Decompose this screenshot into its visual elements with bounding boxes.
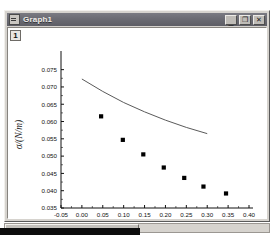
y-tick-label: 0.040 <box>42 187 58 194</box>
window-controls: _ ❐ ✕ <box>225 15 265 25</box>
graph-window: Graph1 _ ❐ ✕ 1 0.0750.0700.0650.0600.055… <box>4 10 270 222</box>
data-point <box>141 152 145 156</box>
minimize-icon: _ <box>226 17 236 25</box>
data-point <box>224 191 228 195</box>
x-tick-label: 0.20 <box>159 211 172 218</box>
plot-area: 0.0750.0700.0650.0600.0550.0500.0450.040… <box>8 28 268 220</box>
x-tick-label: 0.35 <box>222 211 235 218</box>
y-tick-label: 0.050 <box>42 152 58 159</box>
minimize-button[interactable]: _ <box>225 15 237 25</box>
data-point <box>201 184 205 188</box>
data-point <box>162 165 166 169</box>
y-tick-label: 0.065 <box>42 101 58 108</box>
window-title-bar[interactable]: Graph1 _ ❐ ✕ <box>7 13 267 26</box>
y-tick-label: 0.055 <box>42 135 58 142</box>
page-edge-marker <box>0 228 140 235</box>
y-tick-label: 0.070 <box>42 83 58 90</box>
series-line-fitted-curve <box>82 79 207 134</box>
y-tick-label: 0.060 <box>42 118 58 125</box>
x-tick-label: 0.15 <box>139 211 152 218</box>
y-tick-label: 0.045 <box>42 170 58 177</box>
y-tick-label: 0.075 <box>42 66 58 73</box>
maximize-icon: ❐ <box>240 16 250 24</box>
x-tick-label: -0.05 <box>54 211 69 218</box>
x-tick-label: 0.10 <box>118 211 131 218</box>
maximize-button[interactable]: ❐ <box>239 15 251 25</box>
data-point <box>121 138 125 142</box>
x-tick-label: 0.00 <box>76 211 89 218</box>
close-icon: ✕ <box>254 16 264 24</box>
close-button[interactable]: ✕ <box>253 15 265 25</box>
x-tick-label: 0.25 <box>180 211 193 218</box>
x-tick-label: 0.30 <box>201 211 214 218</box>
data-point <box>182 176 186 180</box>
y-axis-title: σ/(N/m) <box>14 120 25 150</box>
data-point <box>99 114 103 118</box>
x-tick-label: 0.40 <box>243 211 256 218</box>
x-tick-label: 0.05 <box>97 211 110 218</box>
window-title: Graph1 <box>23 15 52 24</box>
graph-canvas[interactable]: 1 0.0750.0700.0650.0600.0550.0500.0450.0… <box>7 27 267 219</box>
screen: Graph1 _ ❐ ✕ 1 0.0750.0700.0650.0600.055… <box>0 0 274 235</box>
system-menu-icon[interactable] <box>9 14 20 25</box>
